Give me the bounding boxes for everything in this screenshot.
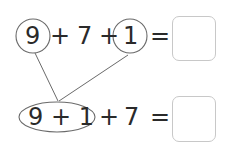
line-from-1 (59, 55, 128, 101)
grouped-sum: 9 + 1 (28, 105, 94, 129)
number-7: 7 (77, 24, 92, 48)
answer-box-2[interactable] (172, 96, 216, 142)
plus-sign: + (99, 105, 119, 129)
equals-sign: = (150, 105, 170, 129)
number-9: 9 (25, 24, 40, 48)
plus-sign: + (50, 24, 70, 48)
number-1: 1 (123, 24, 138, 48)
line-from-9 (35, 53, 58, 101)
plus-sign: + (99, 24, 119, 48)
answer-box-1[interactable] (172, 16, 216, 61)
number-7: 7 (124, 105, 139, 129)
equals-sign: = (150, 24, 170, 48)
